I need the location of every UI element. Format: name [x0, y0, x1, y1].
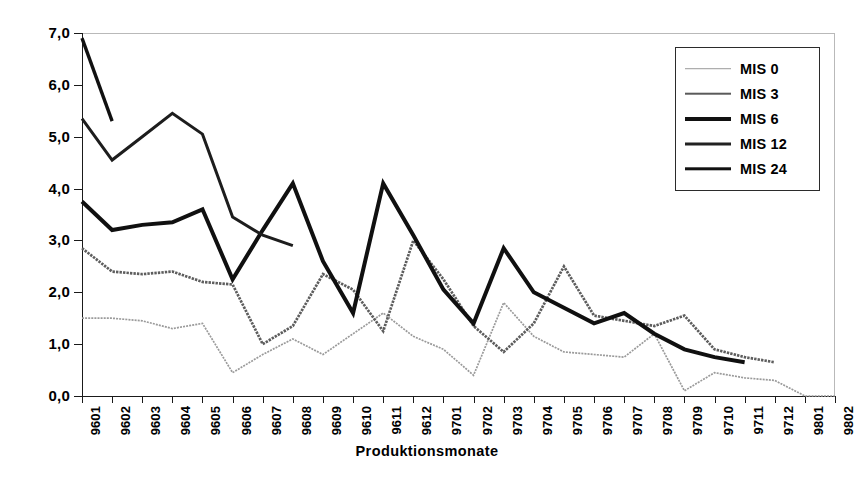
- x-axis-label: 9608: [299, 406, 314, 435]
- x-axis-tick: [142, 396, 143, 403]
- legend-label-mis-12: MIS 12: [740, 136, 787, 152]
- x-axis-label: 9603: [148, 406, 163, 435]
- legend-item[interactable]: MIS 6: [676, 106, 819, 131]
- legend-swatch-mis-6: [685, 114, 731, 124]
- y-axis-label: 7,0: [18, 25, 70, 40]
- x-axis-tick: [534, 396, 535, 403]
- x-axis-label: 9602: [118, 406, 133, 435]
- line-chart: 0,01,02,03,04,05,06,07,0 960196029603960…: [0, 0, 854, 483]
- x-axis-tick: [684, 396, 685, 403]
- x-axis-tick: [474, 396, 475, 403]
- x-axis-label: 9605: [208, 406, 223, 435]
- x-axis-tick: [745, 396, 746, 403]
- x-axis-label: 9703: [510, 406, 525, 435]
- x-axis-tick: [594, 396, 595, 403]
- x-axis-tick: [504, 396, 505, 403]
- x-axis-tick: [443, 396, 444, 403]
- y-axis-label: 3,0: [18, 232, 70, 247]
- legend-item[interactable]: MIS 0: [676, 56, 819, 81]
- y-axis-tick: [74, 137, 83, 138]
- legend-swatch-mis-12: [685, 139, 731, 149]
- x-axis-tick: [624, 396, 625, 403]
- x-axis-tick: [202, 396, 203, 403]
- x-axis-label: 9612: [419, 406, 434, 435]
- legend-swatch-mis-24: [685, 164, 731, 174]
- x-axis-label: 9709: [690, 406, 705, 435]
- x-axis-label: 9706: [600, 406, 615, 435]
- legend-label-mis-6: MIS 6: [740, 111, 779, 127]
- legend: MIS 0 MIS 3 MIS 6 MIS 12 MIS 24: [675, 47, 820, 191]
- x-axis-line: [82, 396, 835, 397]
- legend-swatch-mis-3: [685, 89, 731, 99]
- x-axis-tick: [233, 396, 234, 403]
- x-axis-tick: [654, 396, 655, 403]
- x-axis-tick: [413, 396, 414, 403]
- x-axis-label: 9705: [570, 406, 585, 435]
- y-axis-label: 6,0: [18, 77, 70, 92]
- y-axis-tick: [74, 33, 83, 34]
- y-axis-tick: [74, 189, 83, 190]
- x-axis-label: 9610: [359, 406, 374, 435]
- legend-swatch-mis-0: [685, 64, 731, 74]
- x-axis-label: 9611: [389, 406, 404, 435]
- x-axis-tick: [715, 396, 716, 403]
- x-axis-label: 9606: [239, 406, 254, 435]
- y-axis-label: 2,0: [18, 284, 70, 299]
- x-axis-label: 9607: [269, 406, 284, 435]
- legend-item[interactable]: MIS 12: [676, 131, 819, 156]
- y-axis-tick: [74, 240, 83, 241]
- legend-item[interactable]: MIS 24: [676, 156, 819, 181]
- x-axis-tick: [775, 396, 776, 403]
- x-axis-tick: [293, 396, 294, 403]
- x-axis-label: 9702: [480, 406, 495, 435]
- legend-label-mis-24: MIS 24: [740, 161, 787, 177]
- x-axis-tick: [172, 396, 173, 403]
- y-axis-label: 0,0: [18, 388, 70, 403]
- x-axis-tick: [564, 396, 565, 403]
- legend-label-mis-0: MIS 0: [740, 61, 779, 77]
- x-axis-label: 9710: [721, 406, 736, 435]
- x-axis-label: 9707: [630, 406, 645, 435]
- x-axis-tick: [383, 396, 384, 403]
- y-axis-tick: [74, 85, 83, 86]
- legend-item[interactable]: MIS 3: [676, 81, 819, 106]
- x-axis-label: 9704: [540, 406, 555, 435]
- x-axis-label: 9712: [781, 406, 796, 435]
- legend-label-mis-3: MIS 3: [740, 86, 779, 102]
- x-axis-tick: [263, 396, 264, 403]
- y-axis-line: [82, 33, 83, 396]
- x-axis-label: 9601: [88, 406, 103, 435]
- x-axis-tick: [323, 396, 324, 403]
- y-axis-label: 5,0: [18, 129, 70, 144]
- y-axis-tick: [74, 344, 83, 345]
- x-axis-label: 9701: [449, 406, 464, 435]
- x-axis-label: 9708: [660, 406, 675, 435]
- x-axis-tick: [835, 396, 836, 403]
- x-axis-label: 9802: [841, 406, 854, 435]
- x-axis-tick: [82, 396, 83, 403]
- y-axis-label: 4,0: [18, 181, 70, 196]
- x-axis-title: Produktionsmonate: [0, 443, 854, 459]
- x-axis-label: 9604: [178, 406, 193, 435]
- y-axis-label: 1,0: [18, 336, 70, 351]
- x-axis-label: 9801: [811, 406, 826, 435]
- x-axis-tick: [353, 396, 354, 403]
- x-axis-label: 9609: [329, 406, 344, 435]
- x-axis-tick: [112, 396, 113, 403]
- x-axis-tick: [805, 396, 806, 403]
- x-axis-label: 9711: [751, 406, 766, 435]
- y-axis-tick: [74, 292, 83, 293]
